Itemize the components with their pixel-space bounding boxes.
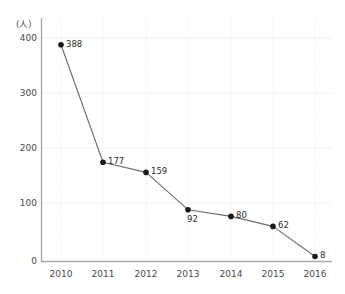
x-tick-label-2011: 2011 — [80, 269, 126, 279]
data-label-2011: 177 — [108, 156, 124, 166]
data-point — [100, 160, 106, 166]
x-tick-label-2010: 2010 — [38, 269, 84, 279]
data-point — [58, 42, 64, 48]
data-label-2010: 388 — [66, 39, 82, 49]
chart-plot-area — [0, 0, 345, 294]
data-point — [312, 254, 318, 260]
data-label-2016: 8 — [320, 250, 325, 260]
data-label-2015: 62 — [278, 220, 289, 230]
y-tick-label-200: 200 — [6, 143, 37, 153]
data-point — [185, 207, 191, 213]
data-label-2012: 159 — [151, 166, 167, 176]
x-tick-label-2013: 2013 — [165, 269, 211, 279]
data-point — [143, 170, 149, 176]
data-label-2013: 92 — [187, 214, 198, 224]
y-axis-unit-label: (人) — [16, 17, 32, 29]
x-tick-label-2015: 2015 — [250, 269, 296, 279]
x-tick-label-2016: 2016 — [292, 269, 338, 279]
y-tick-label-400: 400 — [6, 33, 37, 43]
data-label-2014: 80 — [236, 210, 247, 220]
y-tick-label-300: 300 — [6, 88, 37, 98]
line-chart: (人) 400 300 200 100 0 2010 2011 2012 201… — [0, 0, 345, 294]
x-tick-label-2012: 2012 — [123, 269, 169, 279]
y-tick-label-0: 0 — [6, 256, 37, 266]
horizontal-gridlines — [41, 38, 332, 203]
x-tick-label-2014: 2014 — [208, 269, 254, 279]
data-point — [270, 224, 276, 230]
data-point — [228, 214, 234, 220]
y-tick-label-100: 100 — [6, 198, 37, 208]
